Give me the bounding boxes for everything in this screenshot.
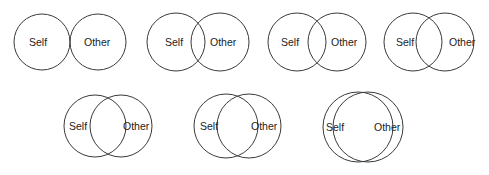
other-label: Other: [84, 36, 111, 48]
overlap-pair-4: SelfOther: [384, 13, 476, 71]
overlap-pair-1: SelfOther: [14, 14, 126, 70]
other-label: Other: [449, 36, 476, 48]
self-other-overlap-diagram: SelfOtherSelfOtherSelfOtherSelfOtherSelf…: [0, 0, 489, 175]
other-label: Other: [123, 120, 150, 132]
self-label: Self: [200, 120, 218, 132]
overlap-pair-6: SelfOther: [194, 94, 281, 158]
overlap-pair-3: SelfOther: [268, 13, 366, 71]
overlap-pair-2: SelfOther: [147, 13, 249, 71]
self-label: Self: [326, 121, 344, 133]
self-label: Self: [396, 36, 414, 48]
overlap-pair-7: SelfOther: [323, 92, 403, 162]
self-label: Self: [281, 36, 299, 48]
self-label: Self: [69, 120, 87, 132]
overlap-pair-5: SelfOther: [64, 95, 152, 157]
other-label: Other: [251, 120, 278, 132]
other-label: Other: [210, 36, 237, 48]
other-label: Other: [331, 36, 358, 48]
self-label: Self: [165, 36, 183, 48]
other-label: Other: [374, 121, 401, 133]
self-label: Self: [29, 36, 47, 48]
